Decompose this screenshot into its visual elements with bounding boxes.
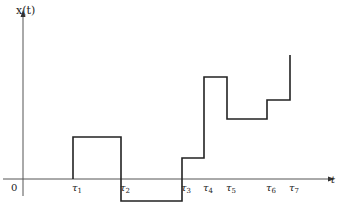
tick-labels: τ1τ2τ3τ4τ5τ6τ7 [72,182,299,195]
x-axis-label: t [331,174,336,185]
tick-label-tau-4: τ4 [203,182,214,195]
tick-label-tau-5: τ5 [226,182,236,195]
y-axis-label: x(t) [16,4,35,17]
axes [3,10,335,196]
tick-label-tau-6: τ6 [266,182,277,195]
tick-label-tau-7: τ7 [289,182,299,195]
tick-label-tau-1: τ1 [72,182,82,195]
piecewise-constant-signal-diagram: x(t) t 0 τ1τ2τ3τ4τ5τ6τ7 [0,0,351,212]
origin-label: 0 [11,182,17,193]
